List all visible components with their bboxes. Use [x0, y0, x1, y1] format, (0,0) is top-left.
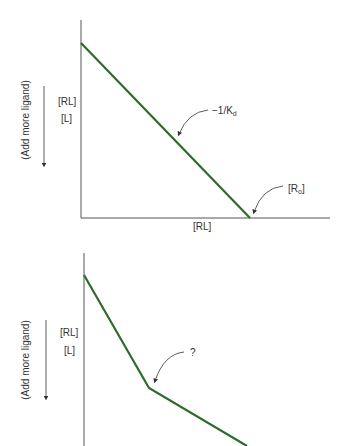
top-side-label: (Add more ligand)	[20, 80, 31, 159]
top-data-line	[81, 43, 250, 218]
bottom-side-label: (Add more ligand)	[20, 320, 31, 399]
top-y-label-rl: [RL]	[58, 96, 77, 107]
bottom-y-label-rl: [RL]	[60, 327, 79, 338]
question-annotation: ?	[190, 347, 196, 358]
question-arrow-icon	[155, 352, 184, 381]
scatchard-figure: (Add more ligand) [RL] [L] [RL] −1/Kd [R…	[0, 0, 346, 446]
bottom-y-label-l: [L]	[64, 345, 75, 356]
intercept-arrow-icon	[254, 186, 283, 212]
intercept-annotation: [Ro]	[288, 183, 305, 195]
bottom-data-line	[84, 275, 247, 446]
bottom-chart: (Add more ligand) [RL] [L] ?	[20, 253, 247, 446]
top-chart: (Add more ligand) [RL] [L] [RL] −1/Kd [R…	[20, 20, 330, 232]
slope-arrow-icon	[179, 110, 208, 134]
top-y-label-l: [L]	[61, 113, 72, 124]
top-x-label: [RL]	[193, 221, 212, 232]
slope-annotation: −1/Kd	[212, 105, 237, 117]
